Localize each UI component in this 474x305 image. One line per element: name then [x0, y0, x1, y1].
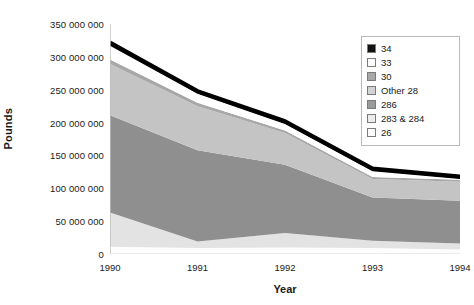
y-tick-label: 350 000 000 [18, 19, 104, 30]
legend-swatch [367, 58, 376, 67]
x-tick-label: 1994 [449, 262, 470, 273]
y-tick-label: 250 000 000 [18, 84, 104, 95]
legend-item: 33 [367, 56, 454, 69]
legend-swatch [367, 100, 376, 109]
x-axis-title: Year [110, 283, 460, 295]
legend-label: 286 [381, 100, 397, 110]
x-tick-label: 1993 [362, 262, 383, 273]
x-tick-label: 1991 [187, 262, 208, 273]
y-tick-label: 150 000 000 [18, 150, 104, 161]
legend-item: Other 28 [367, 84, 454, 97]
x-tick-label: 1992 [274, 262, 295, 273]
legend-label: 34 [381, 44, 392, 54]
stacked-area-chart: Pounds 050 000 000100 000 000150 000 000… [0, 0, 474, 305]
legend-swatch [367, 44, 376, 53]
x-tick-label: 1990 [99, 262, 120, 273]
legend-swatch [367, 86, 376, 95]
legend-item: 286 [367, 98, 454, 111]
legend-item: 34 [367, 42, 454, 55]
legend-swatch [367, 128, 376, 137]
y-tick-label: 100 000 000 [18, 183, 104, 194]
chart-legend: 343330Other 28286283 & 28426 [361, 36, 460, 146]
y-tick-label: 0 [18, 249, 104, 260]
legend-label: 33 [381, 58, 392, 68]
y-tick-label: 50 000 000 [18, 216, 104, 227]
y-tick-label: 200 000 000 [18, 117, 104, 128]
legend-label: 283 & 284 [381, 114, 424, 124]
legend-label: Other 28 [381, 86, 418, 96]
legend-swatch [367, 114, 376, 123]
legend-item: 283 & 284 [367, 112, 454, 125]
legend-item: 30 [367, 70, 454, 83]
legend-label: 26 [381, 128, 392, 138]
y-tick-label: 300 000 000 [18, 51, 104, 62]
y-axis-tick-labels: 050 000 000100 000 000150 000 000200 000… [16, 0, 104, 305]
legend-label: 30 [381, 72, 392, 82]
legend-swatch [367, 72, 376, 81]
legend-item: 26 [367, 126, 454, 139]
